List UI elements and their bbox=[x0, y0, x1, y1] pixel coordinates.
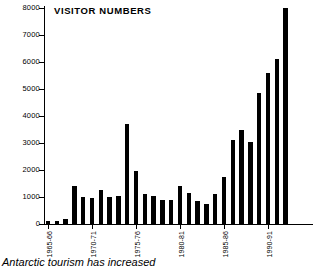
bar bbox=[134, 171, 138, 224]
bar bbox=[81, 197, 85, 224]
bar bbox=[63, 219, 67, 224]
bar bbox=[266, 73, 270, 224]
x-axis-tick-label: 1975-76 bbox=[133, 231, 140, 257]
bar bbox=[178, 186, 182, 224]
bar bbox=[257, 93, 261, 224]
chart-figure: 010002000300040005000600070008000 1965-6… bbox=[0, 0, 317, 273]
chart-title: VISITOR NUMBERS bbox=[54, 5, 152, 16]
x-axis-tick-label: 1970-71 bbox=[89, 231, 96, 257]
bar bbox=[107, 197, 111, 224]
bar bbox=[143, 194, 147, 224]
bar bbox=[160, 200, 164, 224]
x-axis-tick bbox=[48, 224, 49, 229]
bar bbox=[239, 130, 243, 225]
y-axis-tick-label: 4000 bbox=[23, 112, 41, 120]
bar bbox=[195, 201, 199, 224]
bar bbox=[222, 177, 226, 224]
y-axis-tick-label: 7000 bbox=[23, 31, 41, 39]
x-axis-tick-label: 1985-86 bbox=[221, 231, 228, 257]
figure-caption: Antarctic tourism has increased bbox=[2, 256, 155, 268]
x-axis-tick-label: 1980-81 bbox=[177, 231, 184, 257]
bar bbox=[231, 140, 235, 224]
bar bbox=[116, 196, 120, 224]
y-axis-tick-label: 8000 bbox=[23, 4, 41, 12]
x-axis-tick-label: 1990-91 bbox=[265, 231, 272, 257]
bar bbox=[248, 142, 252, 224]
x-axis-tick bbox=[92, 224, 93, 229]
bar-series bbox=[44, 8, 313, 224]
x-axis-tick bbox=[136, 224, 137, 229]
y-axis-tick-label: 3000 bbox=[23, 139, 41, 147]
x-axis-tick-label: 1965-66 bbox=[45, 231, 52, 257]
x-axis-tick bbox=[180, 224, 181, 229]
bar bbox=[275, 59, 279, 224]
bar bbox=[72, 186, 76, 224]
bar bbox=[283, 8, 287, 224]
bar bbox=[90, 198, 94, 224]
y-axis-tick-label: 2000 bbox=[23, 166, 41, 174]
bar bbox=[55, 221, 59, 224]
y-axis-tick-label: 5000 bbox=[23, 85, 41, 93]
y-axis-tick-label: 1000 bbox=[23, 193, 41, 201]
x-axis-line bbox=[44, 224, 313, 225]
bar bbox=[169, 200, 173, 224]
bar bbox=[125, 124, 129, 224]
bar bbox=[213, 194, 217, 224]
bar bbox=[187, 193, 191, 224]
bar bbox=[151, 196, 155, 224]
bar bbox=[204, 204, 208, 224]
bar bbox=[99, 190, 103, 224]
x-axis-tick bbox=[224, 224, 225, 229]
y-axis-tick-label: 0 bbox=[36, 220, 40, 228]
y-axis-tick-label: 6000 bbox=[23, 58, 41, 66]
x-axis-tick bbox=[268, 224, 269, 229]
